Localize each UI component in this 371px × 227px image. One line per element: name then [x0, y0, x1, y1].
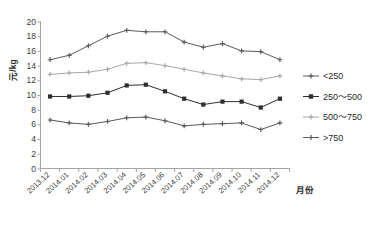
legend-swatch-marker: [309, 74, 314, 79]
series-1: [48, 115, 283, 132]
data-point-marker: [201, 102, 205, 106]
data-point-marker: [125, 83, 129, 87]
data-point-marker: [105, 119, 110, 124]
data-point-marker: [48, 94, 52, 98]
y-tick-label: 12: [27, 75, 37, 85]
data-point-marker: [220, 121, 225, 126]
data-point-marker: [220, 100, 224, 104]
y-tick-label: 16: [27, 46, 37, 56]
legend-item-label: 250～500: [323, 92, 362, 102]
y-axis-title: 元/kg: [8, 59, 18, 80]
data-point-marker: [163, 118, 168, 123]
data-point-marker: [259, 105, 263, 109]
data-point-marker: [278, 73, 283, 78]
y-tick-label: 0: [31, 164, 36, 174]
data-point-marker: [67, 94, 71, 98]
data-point-marker: [182, 67, 187, 72]
series-line: [50, 30, 280, 59]
legend-item-label: <250: [323, 71, 343, 81]
data-point-marker: [143, 29, 148, 34]
data-point-marker: [258, 127, 263, 132]
line-chart: 02468101214161820 2013.122014.012014.022…: [0, 0, 371, 227]
y-tick-label: 20: [27, 17, 37, 27]
data-point-marker: [124, 115, 129, 120]
y-axis-tick-labels: 02468101214161820: [27, 17, 37, 174]
data-point-marker: [258, 49, 263, 54]
data-point-marker: [163, 63, 168, 68]
data-point-marker: [105, 34, 110, 39]
data-point-marker: [239, 121, 244, 126]
legend-item-label: 500～750: [323, 112, 362, 122]
data-point-marker: [239, 76, 244, 81]
legend-swatch-marker: [309, 115, 314, 120]
y-tick-label: 8: [31, 105, 36, 115]
x-axis-tick-marks: [41, 169, 290, 173]
y-tick-label: 2: [31, 149, 36, 159]
data-point-marker: [239, 49, 244, 54]
legend-item-3[interactable]: 500～750: [303, 112, 362, 122]
data-point-marker: [201, 45, 206, 50]
data-point-marker: [278, 57, 283, 62]
legend-item-1[interactable]: <250: [303, 71, 343, 81]
y-tick-label: 4: [31, 134, 36, 144]
series-line: [50, 85, 280, 108]
data-point-marker: [86, 94, 90, 98]
data-point-marker: [67, 71, 72, 76]
series-3: [48, 60, 283, 82]
data-point-marker: [220, 73, 225, 78]
data-point-marker: [163, 29, 168, 34]
data-point-marker: [258, 77, 263, 82]
series-group: [48, 28, 283, 132]
data-point-marker: [201, 71, 206, 76]
x-axis-tick-labels: 2013.122014.012014.022014.032014.042014.…: [25, 170, 281, 195]
data-point-marker: [201, 122, 206, 127]
data-point-marker: [86, 122, 91, 127]
y-tick-label: 14: [27, 61, 37, 71]
legend-item-2[interactable]: 250～500: [303, 92, 362, 102]
y-tick-label: 10: [27, 90, 37, 100]
legend-item-label: >750: [323, 133, 343, 143]
data-point-marker: [182, 97, 186, 101]
data-point-marker: [67, 53, 72, 58]
data-point-marker: [143, 60, 148, 65]
legend-swatch-marker: [309, 94, 313, 98]
chart-legend: <250250～500500～750>750: [303, 71, 362, 143]
data-point-marker: [67, 121, 72, 126]
legend-item-4[interactable]: >750: [303, 133, 343, 143]
data-point-marker: [240, 100, 244, 104]
data-point-marker: [48, 72, 53, 77]
data-point-marker: [48, 57, 53, 62]
series-2: [48, 83, 282, 110]
data-point-marker: [105, 91, 109, 95]
data-point-marker: [86, 43, 91, 48]
chart-canvas: 02468101214161820 2013.122014.012014.022…: [0, 0, 371, 227]
data-point-marker: [124, 61, 129, 66]
data-point-marker: [86, 70, 91, 75]
x-axis-title: 月份: [295, 185, 314, 195]
data-point-marker: [278, 97, 282, 101]
data-point-marker: [182, 123, 187, 128]
data-point-marker: [143, 115, 148, 120]
y-tick-label: 18: [27, 31, 37, 41]
data-point-marker: [163, 89, 167, 93]
data-point-marker: [182, 40, 187, 45]
data-point-marker: [220, 41, 225, 46]
data-point-marker: [105, 67, 110, 72]
legend-swatch-marker: [309, 135, 314, 140]
data-point-marker: [144, 83, 148, 87]
data-point-marker: [48, 118, 53, 123]
data-point-marker: [124, 28, 129, 33]
y-tick-label: 6: [31, 119, 36, 129]
data-point-marker: [278, 121, 283, 126]
series-4: [48, 28, 283, 62]
